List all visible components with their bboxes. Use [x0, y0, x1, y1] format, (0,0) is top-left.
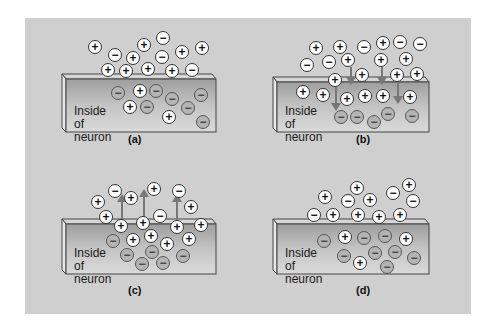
inside-of-neuron-label: Insideof neuron [74, 247, 111, 286]
ion-charge: + [150, 183, 157, 195]
negative-ion-icon: − [406, 194, 420, 208]
negative-ion-icon: − [140, 100, 154, 114]
negative-ion-icon: − [378, 229, 392, 243]
positive-ion-icon: + [326, 208, 340, 222]
inside-of-neuron-label: Insideof neuron [74, 105, 111, 144]
ion-charge: + [198, 42, 205, 54]
ion-charge: + [144, 63, 151, 75]
arrow-down-icon [350, 67, 352, 79]
positive-ion-icon: + [390, 68, 404, 82]
ion-charge: − [188, 64, 195, 76]
positive-ion-icon: + [374, 53, 388, 67]
positive-ion-icon: + [137, 38, 151, 52]
negative-ion-icon: − [405, 109, 419, 123]
ion-charge: + [126, 101, 133, 113]
ion-charge: − [168, 93, 175, 105]
positive-ion-icon: + [372, 210, 386, 224]
ion-charge: − [384, 108, 391, 120]
positive-ion-icon: + [376, 36, 390, 50]
inside-of-neuron-label: Insideof neuron [285, 247, 322, 286]
positive-ion-icon: + [296, 85, 310, 99]
ion-charge: + [413, 68, 420, 80]
positive-ion-icon: + [144, 229, 158, 243]
positive-ion-icon: + [340, 92, 354, 106]
ion-charge: + [341, 231, 348, 243]
ion-charge: + [405, 179, 412, 191]
arrow-down-icon [381, 67, 383, 79]
negative-ion-icon: − [108, 48, 122, 62]
positive-ion-icon: + [410, 67, 424, 81]
positive-ion-icon: + [341, 53, 355, 67]
ion-charge: − [344, 195, 351, 207]
ion-charge: + [379, 90, 386, 102]
ion-charge: − [148, 246, 155, 258]
ion-charge: + [354, 209, 361, 221]
negative-ion-icon: − [322, 55, 336, 69]
ion-charge: + [361, 90, 368, 102]
negative-ion-icon: − [357, 231, 371, 245]
ion-charge: − [303, 59, 310, 71]
ion-charge: − [416, 38, 423, 50]
ion-charge: + [375, 211, 382, 223]
ion-charge: − [391, 246, 398, 258]
ion-charge: + [102, 211, 109, 223]
ion-charge: − [360, 41, 367, 53]
ion-charge: + [321, 191, 328, 203]
negative-ion-icon: − [386, 186, 400, 200]
negative-ion-icon: − [106, 234, 120, 248]
negative-ion-icon: − [111, 86, 125, 100]
ion-charge: − [408, 110, 415, 122]
ion-charge: − [320, 235, 327, 247]
ion-charge: + [402, 233, 409, 245]
ion-charge: − [199, 116, 206, 128]
negative-ion-icon: − [155, 50, 169, 64]
ion-charge: − [409, 195, 416, 207]
ion-charge: − [111, 49, 118, 61]
positive-ion-icon: + [353, 256, 367, 270]
ion-charge: − [360, 232, 367, 244]
positive-ion-icon: + [170, 220, 184, 234]
ion-charge: − [156, 210, 163, 222]
ion-charge: − [111, 185, 118, 197]
positive-ion-icon: + [328, 73, 342, 87]
positive-ion-icon: + [141, 62, 155, 76]
panel-caption: (b) [356, 133, 370, 145]
ion-charge: + [406, 91, 413, 103]
negative-ion-icon: − [185, 63, 199, 77]
negative-ion-icon: − [381, 107, 395, 121]
negative-ion-icon: − [196, 115, 210, 129]
negative-ion-icon: − [368, 246, 382, 260]
ion-charge: + [366, 194, 373, 206]
negative-ion-icon: − [341, 194, 355, 208]
panel-caption: (d) [356, 284, 370, 296]
positive-ion-icon: + [338, 230, 352, 244]
ion-charge: + [168, 65, 175, 77]
ion-charge: − [159, 32, 166, 44]
ion-charge: − [381, 230, 388, 242]
ion-charge: − [143, 101, 150, 113]
ion-charge: + [343, 93, 350, 105]
positive-ion-icon: + [363, 193, 377, 207]
positive-ion-icon: + [165, 64, 179, 78]
ion-charge: + [185, 233, 192, 245]
negative-ion-icon: − [153, 209, 167, 223]
positive-ion-icon: + [124, 191, 138, 205]
positive-ion-icon: + [403, 90, 417, 104]
negative-ion-icon: − [194, 88, 208, 102]
ion-charge: + [358, 69, 365, 81]
ion-charge: + [178, 46, 185, 58]
positive-ion-icon: + [194, 218, 208, 232]
positive-ion-icon: + [182, 232, 196, 246]
negative-ion-icon: − [176, 249, 190, 263]
positive-ion-icon: + [399, 52, 413, 66]
ion-charge: + [136, 85, 143, 97]
negative-ion-icon: − [380, 260, 394, 274]
ion-charge: − [138, 258, 145, 270]
ion-charge: − [337, 111, 344, 123]
negative-ion-icon: − [357, 40, 371, 54]
negative-ion-icon: − [120, 248, 134, 262]
negative-ion-icon: − [388, 245, 402, 259]
negative-ion-icon: − [156, 256, 170, 270]
negative-ion-icon: − [307, 208, 321, 222]
ion-charge: + [312, 42, 319, 54]
